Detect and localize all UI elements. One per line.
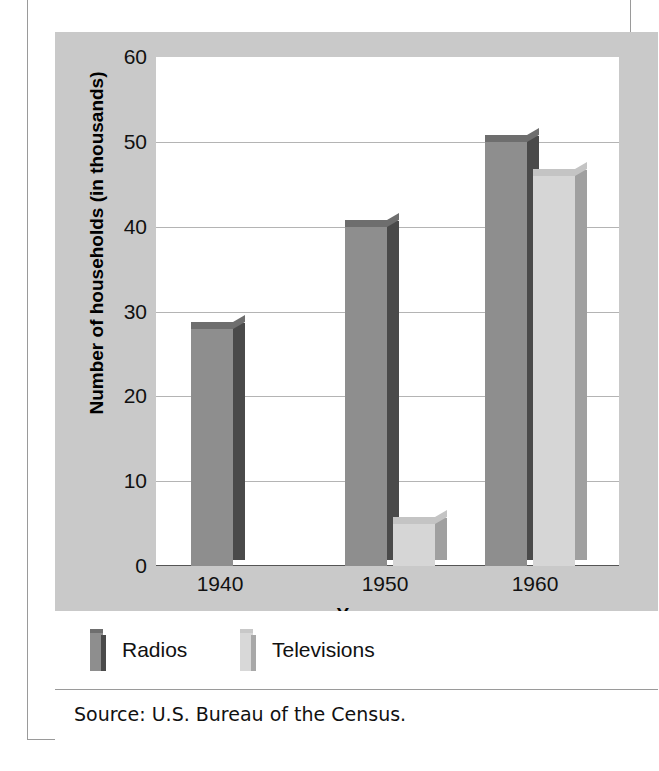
bar-radios-1960	[485, 142, 527, 566]
source-note: Source: U.S. Bureau of the Census.	[74, 703, 406, 725]
bar-side-face	[575, 170, 587, 560]
bar-radios-1950	[345, 227, 387, 566]
bar-televisions-1960	[533, 176, 575, 566]
x-tick-1950: 1950	[325, 572, 445, 596]
bar-televisions-1950	[393, 524, 435, 566]
x-tick-1960: 1960	[475, 572, 595, 596]
bar-front-face	[533, 176, 575, 566]
legend-item-televisions: Televisions	[240, 629, 375, 671]
legend-item-radios: Radios	[90, 629, 187, 671]
bar-front-face	[393, 524, 435, 566]
bar-top-face	[345, 220, 387, 227]
bar-top-face	[191, 322, 233, 329]
bar-side-face	[435, 518, 447, 560]
bar-top-face	[533, 169, 575, 176]
bar-top-face	[485, 135, 527, 142]
y-tick-20: 20	[77, 384, 147, 408]
y-tick-60: 60	[77, 45, 147, 69]
bar-top-face	[393, 517, 435, 524]
x-tick-1940: 1940	[160, 572, 280, 596]
light-gray-bar-icon	[240, 629, 256, 671]
y-tick-50: 50	[77, 130, 147, 154]
bar-side-face	[233, 323, 245, 561]
chart-panel: Number of households (in thousands) 60 5…	[55, 32, 658, 611]
figure-container: Number of households (in thousands) 60 5…	[27, 0, 631, 740]
y-tick-40: 40	[77, 215, 147, 239]
bar-front-face	[485, 142, 527, 566]
plot-area	[156, 57, 619, 566]
gridline-50	[156, 142, 619, 143]
source-row: Source: U.S. Bureau of the Census.	[55, 690, 658, 740]
legend-label-radios: Radios	[122, 638, 187, 662]
y-tick-30: 30	[77, 300, 147, 324]
dark-gray-bar-icon	[90, 629, 106, 671]
bar-front-face	[345, 227, 387, 566]
legend-label-televisions: Televisions	[272, 638, 375, 662]
bar-radios-1940	[191, 329, 233, 567]
y-tick-10: 10	[77, 469, 147, 493]
bar-front-face	[191, 329, 233, 567]
y-axis-tick-labels: 60 50 40 30 20 10 0	[75, 57, 147, 566]
y-tick-0: 0	[77, 554, 147, 578]
chart-legend: Radios Televisions	[55, 611, 658, 689]
bar-side-face	[387, 221, 399, 560]
